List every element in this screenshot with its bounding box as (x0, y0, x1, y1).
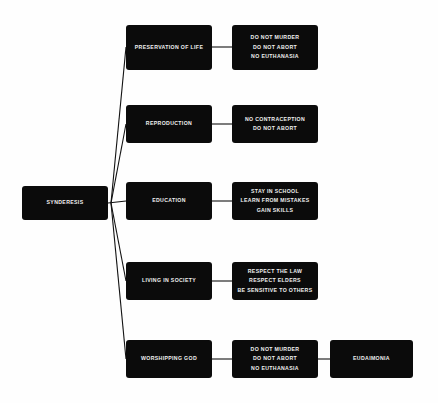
edge-synderesis-worshipping-god (111, 203, 126, 359)
node-detail-living-in-society[interactable]: RESPECT THE LAW RESPECT ELDERS BE SENSIT… (232, 262, 318, 300)
detail-line: GAIN SKILLS (257, 206, 294, 216)
detail-line: NO CONTRACEPTION (245, 115, 305, 125)
detail-line: STAY IN SCHOOL (251, 187, 299, 197)
node-reproduction-label: REPRODUCTION (146, 119, 192, 129)
node-preservation-of-life[interactable]: PRESERVATION OF LIFE (126, 25, 212, 70)
node-preservation-of-life-label: PRESERVATION OF LIFE (135, 43, 203, 53)
node-eudaimonia[interactable]: EUDAIMONIA (330, 340, 413, 378)
node-education[interactable]: EDUCATION (126, 182, 212, 220)
detail-line: DO NOT ABORT (253, 354, 297, 364)
node-detail-reproduction[interactable]: NO CONTRACEPTION DO NOT ABORT (232, 105, 318, 143)
detail-line: RESPECT ELDERS (249, 276, 301, 286)
edge-synderesis-preservation (111, 47, 126, 203)
detail-line: DO NOT MURDER (251, 345, 300, 355)
detail-line: RESPECT THE LAW (248, 267, 303, 277)
node-worshipping-god[interactable]: WORSHIPPING GOD (126, 340, 212, 378)
detail-line: NO EUTHANASIA (251, 364, 299, 374)
detail-line: DO NOT ABORT (253, 124, 297, 134)
node-worshipping-god-label: WORSHIPPING GOD (141, 354, 197, 364)
detail-line: LEARN FROM MISTAKES (240, 196, 309, 206)
node-detail-education[interactable]: STAY IN SCHOOL LEARN FROM MISTAKES GAIN … (232, 182, 318, 220)
node-synderesis-label: SYNDERESIS (47, 198, 84, 208)
node-living-in-society-label: LIVING IN SOCIETY (142, 276, 196, 286)
diagram-canvas: SYNDERESIS PRESERVATION OF LIFE DO NOT M… (0, 0, 438, 403)
node-eudaimonia-label: EUDAIMONIA (353, 354, 390, 364)
node-synderesis[interactable]: SYNDERESIS (22, 186, 108, 220)
node-detail-preservation-of-life[interactable]: DO NOT MURDER DO NOT ABORT NO EUTHANASIA (232, 25, 318, 70)
edge-synderesis-education (108, 201, 126, 203)
node-reproduction[interactable]: REPRODUCTION (126, 105, 212, 143)
detail-line: BE SENSITIVE TO OTHERS (237, 286, 312, 296)
edge-synderesis-reproduction (111, 124, 126, 203)
detail-line: DO NOT MURDER (251, 33, 300, 43)
node-education-label: EDUCATION (152, 196, 186, 206)
detail-line: NO EUTHANASIA (251, 52, 299, 62)
edge-synderesis-living-in-society (111, 203, 126, 281)
node-detail-worshipping-god[interactable]: DO NOT MURDER DO NOT ABORT NO EUTHANASIA (232, 340, 318, 378)
node-living-in-society[interactable]: LIVING IN SOCIETY (126, 262, 212, 300)
detail-line: DO NOT ABORT (253, 43, 297, 53)
